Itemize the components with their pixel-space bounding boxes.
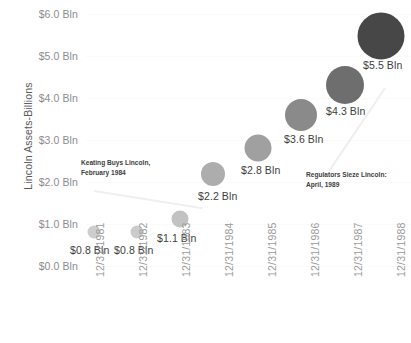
keating-annotation-line-1: Keating Buys Lincoln, — [81, 158, 150, 168]
bubble-point-4[interactable] — [245, 135, 272, 162]
keating-annotation: Keating Buys Lincoln, February 1984 — [81, 158, 150, 178]
y-tick-label-5: $5.0 Bln — [20, 50, 78, 62]
x-tick-label-3: 12/31/1984 — [223, 222, 235, 277]
y-axis: $6.0 Bln $5.0 Bln $4.0 Bln $3.0 Bln $2.0… — [16, 0, 78, 343]
bubble-point-5[interactable] — [285, 99, 317, 131]
keating-annotation-line-2: February 1984 — [81, 168, 150, 178]
bubble-point-7[interactable] — [358, 13, 405, 60]
x-tick-label-5: 12/31/1986 — [309, 222, 321, 277]
y-tick-label-2: $2.0 Bln — [20, 176, 78, 188]
gridline-5 — [86, 56, 411, 57]
y-tick-label-4: $4.0 Bln — [20, 92, 78, 104]
bubble-label-7: $5.5 Bln — [363, 59, 402, 71]
x-tick-label-4: 12/31/1985 — [266, 222, 278, 277]
y-tick-label-3: $3.0 Bln — [20, 134, 78, 146]
gridline-6 — [86, 14, 411, 15]
y-tick-label-0: $0.0 Bln — [20, 260, 78, 272]
bubble-point-6[interactable] — [326, 66, 364, 104]
x-tick-label-1: 12/31/1982 — [137, 222, 149, 277]
gridline-4 — [86, 98, 411, 99]
bubble-label-4: $2.8 Bln — [241, 164, 280, 176]
leader-line-keating — [94, 190, 203, 209]
regulators-annotation-line-2: April, 1989 — [306, 180, 387, 190]
bubble-label-3: $2.2 Bln — [198, 190, 237, 202]
bubble-label-6: $4.3 Bln — [326, 105, 365, 117]
x-tick-label-7: 12/31/1988 — [395, 222, 407, 277]
x-tick-label-0: 12/31/1981 — [94, 222, 106, 277]
y-tick-label-1: $1.0 Bln — [20, 218, 78, 230]
x-tick-label-2: 12/31/1983 — [180, 222, 192, 277]
bubble-label-5: $3.6 Bln — [284, 133, 323, 145]
regulators-annotation-line-1: Regulators Sieze Lincoln: — [306, 170, 387, 180]
plot-area: $0.8 Bln $0.8 Bln $1.1 Bln $2.2 Bln $2.8… — [86, 0, 411, 343]
bubble-point-3[interactable] — [201, 162, 225, 186]
regulators-annotation: Regulators Sieze Lincoln: April, 1989 — [306, 170, 387, 190]
y-tick-label-6: $6.0 Bln — [20, 8, 78, 20]
bubble-chart: Lincoln Assets-Billions $6.0 Bln $5.0 Bl… — [0, 0, 411, 343]
x-tick-label-6: 12/31/1987 — [352, 222, 364, 277]
